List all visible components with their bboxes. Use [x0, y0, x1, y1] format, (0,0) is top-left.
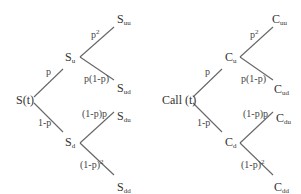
prob-dd-left: (1-p)2	[80, 159, 104, 170]
node-sd: Sd	[65, 136, 75, 150]
prob-ud-left: p(1-p)	[84, 74, 109, 84]
prob-up-right: p	[205, 67, 210, 77]
node-cdu: Cdu	[276, 112, 291, 126]
prob-dd-right: (1-p)2	[241, 159, 265, 170]
node-cu: Cu	[225, 51, 237, 65]
node-cd: Cd	[225, 136, 237, 150]
prob-du-right: (1-p)p	[243, 109, 268, 119]
prob-uu-left: p2	[91, 29, 100, 40]
node-suu: Suu	[117, 13, 131, 27]
node-root-s: S(t)	[16, 94, 34, 106]
prob-down-right: 1-p	[197, 118, 210, 128]
node-cud: Cud	[274, 83, 289, 97]
node-cuu: Cuu	[272, 13, 287, 27]
node-sud: Sud	[117, 82, 131, 96]
prob-down-left: 1-p	[38, 118, 51, 128]
node-cdd: Cdd	[274, 181, 289, 194]
prob-up-left: p	[46, 67, 51, 77]
prob-du-left: (1-p)p	[82, 109, 107, 119]
node-su: Su	[65, 51, 75, 65]
prob-ud-right: p(1-p)	[241, 74, 266, 84]
node-sdd: Sdd	[117, 181, 131, 194]
prob-uu-right: p2	[250, 29, 259, 40]
node-root-call: Call (t)	[162, 94, 196, 106]
node-sdu: Sdu	[117, 110, 131, 124]
